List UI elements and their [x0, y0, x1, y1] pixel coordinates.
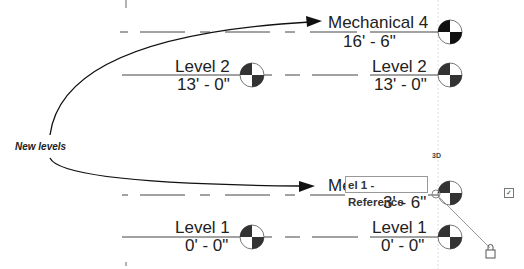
level-head-reference[interactable] [432, 181, 462, 205]
level-elevation-level-2-right[interactable]: 13' - 0" [374, 76, 427, 93]
level-name-level-2-left[interactable]: Level 2 [175, 58, 230, 75]
level-head-level-2-left[interactable] [240, 63, 264, 87]
level-elevation-level-1-right[interactable]: 0' - 0" [381, 237, 424, 254]
level-name-level-1-right[interactable]: Level 1 [372, 219, 427, 236]
callout-new-levels: New levels [15, 141, 66, 152]
level-head-level-1-left[interactable] [240, 225, 264, 249]
level-name-level-1-left[interactable]: Level 1 [175, 219, 230, 236]
level-elevation-level-2-left[interactable]: 13' - 0" [177, 76, 230, 93]
level-head-mechanical-4[interactable] [438, 20, 462, 44]
level-head-level-1-right[interactable] [438, 225, 462, 249]
elevation-view-canvas: Mechanical 4 16' - 6" Level 2 13' - 0" L… [0, 0, 524, 269]
level-elevation-mechanical-4[interactable]: 16' - 6" [343, 33, 396, 50]
3d-extent-label: 3D [432, 152, 441, 159]
level-name-level-2-right[interactable]: Level 2 [372, 58, 427, 75]
show-bubble-checkbox[interactable]: ✓ [504, 188, 514, 198]
callout-arrow-lower [50, 158, 315, 192]
level-elevation-level-1-left[interactable]: 0' - 0" [185, 237, 228, 254]
lock-icon[interactable] [486, 245, 495, 259]
drawing-graphics [0, 0, 524, 269]
level-name-mechanical-4[interactable]: Mechanical 4 [328, 14, 428, 31]
level-head-level-2-right[interactable] [438, 63, 462, 87]
level-name-edit-input[interactable]: el 1 - Reference [345, 176, 428, 193]
